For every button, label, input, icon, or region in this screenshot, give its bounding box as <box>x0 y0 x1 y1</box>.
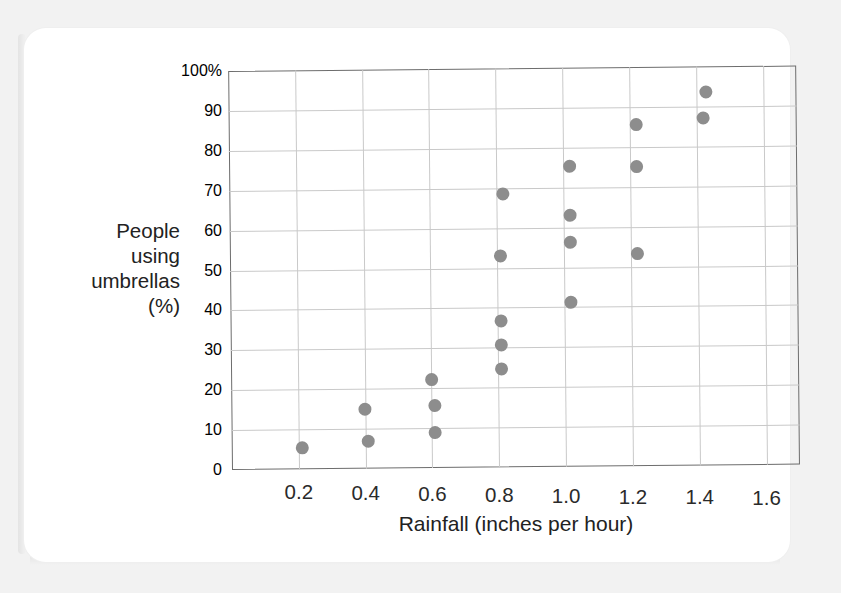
x-tick-label: 1.4 <box>686 485 715 509</box>
x-tick-label: 1.2 <box>619 485 648 509</box>
y-tick-label: 10 <box>204 421 222 439</box>
x-tick-label: 0.8 <box>485 483 514 507</box>
x-tick-label: 0.4 <box>351 481 380 505</box>
x-axis-tick-labels: 0.20.40.60.81.01.21.41.6 <box>232 480 800 514</box>
y-tick-label: 90 <box>204 102 222 120</box>
y-axis-title: Peopleusingumbrellas(%) <box>40 218 180 318</box>
y-tick-label: 30 <box>204 341 222 359</box>
y-axis-title-line: (%) <box>40 293 180 318</box>
y-tick-label: 40 <box>204 301 222 319</box>
scatter-plot: 0102030405060708090100% 0.20.40.60.81.01… <box>0 0 841 593</box>
plot-area <box>228 66 800 470</box>
x-tick-label: 0.2 <box>285 480 314 504</box>
y-axis-title-line: using <box>40 243 180 268</box>
data-point <box>295 441 308 454</box>
y-tick-label: 70 <box>204 182 222 200</box>
y-axis-title-line: umbrellas <box>40 268 180 293</box>
x-tick-label: 0.6 <box>418 482 447 506</box>
x-tick-label: 1.0 <box>552 484 581 508</box>
y-tick-label: 80 <box>204 142 222 160</box>
x-axis-title: Rainfall (inches per hour) <box>232 512 800 536</box>
y-axis-title-line: People <box>40 218 180 243</box>
y-tick-label: 60 <box>204 222 222 240</box>
x-tick-label: 1.6 <box>752 486 781 510</box>
y-tick-label: 0 <box>213 461 222 479</box>
y-tick-label: 50 <box>204 262 222 280</box>
y-tick-label: 20 <box>204 381 222 399</box>
y-tick-label: 100% <box>181 62 222 80</box>
data-point <box>425 373 438 386</box>
